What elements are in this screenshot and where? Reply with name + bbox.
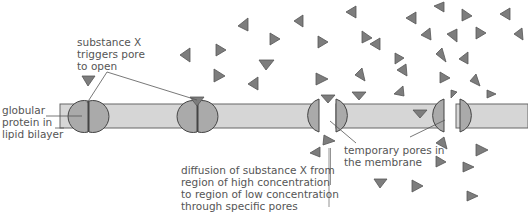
- open-pore-centre: [308, 99, 348, 132]
- open-pore-right: [433, 99, 472, 132]
- label-temporary-pores: temporary pores in the membrane: [344, 144, 445, 168]
- label-diffusion: diffusion of substance X from region of …: [181, 164, 339, 212]
- closed-channel-protein-1: [68, 101, 109, 133]
- label-globular-protein: globular protein in lipid bilayer: [2, 104, 63, 140]
- label-trigger: substance X triggers pore to open: [77, 36, 145, 72]
- lipid-bilayer: [60, 104, 528, 128]
- diagram-canvas: substance X triggers pore to open globul…: [0, 0, 528, 214]
